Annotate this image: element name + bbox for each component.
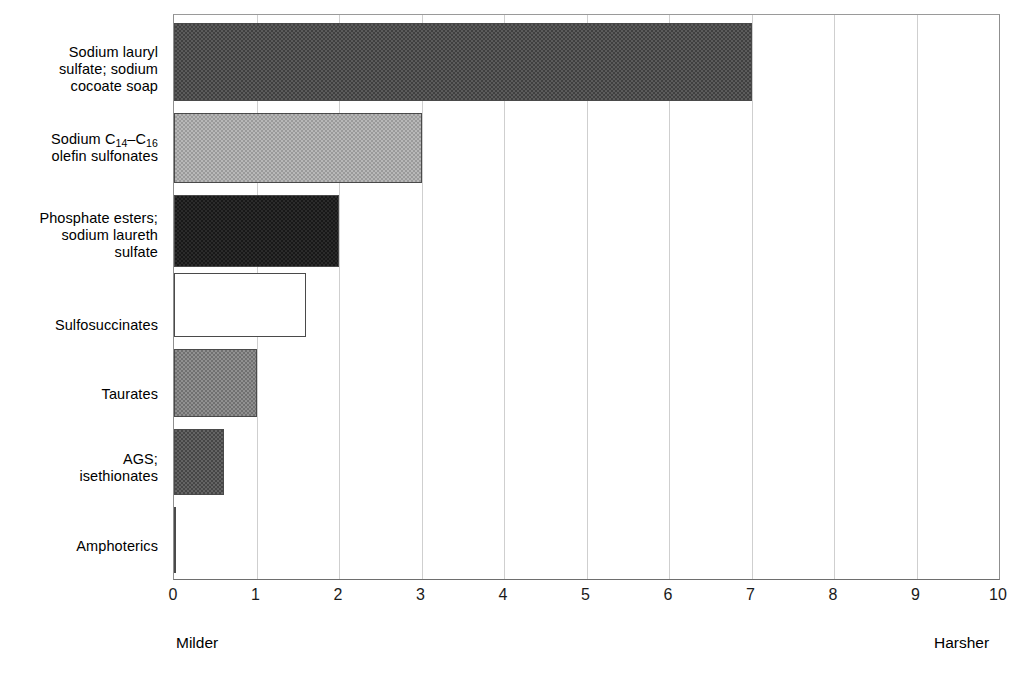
x-tick-label: 2 (334, 586, 343, 604)
bar-ags-isethionates (174, 429, 224, 495)
bar-sodium-olefin-sulfonates (174, 113, 422, 183)
x-tick-label: 9 (911, 586, 920, 604)
category-label-line: Sodium lauryl (0, 44, 158, 61)
category-label-line: isethionates (0, 468, 158, 485)
category-label-sulfosuccinates: Sulfosuccinates (0, 317, 158, 334)
bar-amphoterics (174, 507, 176, 573)
x-axis-tick-labels: 012345678910 (173, 586, 999, 612)
subscript-16: 16 (146, 137, 158, 149)
bar-sodium-lauryl-sulfate (174, 23, 752, 101)
x-tick-label: 1 (251, 586, 260, 604)
category-label-sodium-olefin-sulfonates: Sodium C14–C16 olefin sulfonates (0, 131, 158, 165)
bars-group (174, 15, 999, 579)
category-label-text: –C (127, 131, 146, 147)
category-label-line: olefin sulfonates (0, 148, 158, 165)
axis-note-harsher: Harsher (934, 634, 989, 652)
category-label-line: Sulfosuccinates (0, 317, 158, 334)
category-label-line: Taurates (0, 386, 158, 403)
bar-taurates (174, 349, 257, 417)
axis-note-milder: Milder (176, 634, 218, 652)
category-label-line: Phosphate esters; (0, 210, 158, 227)
category-label-line: sodium laureth (0, 227, 158, 244)
x-tick-label: 6 (664, 586, 673, 604)
subscript-14: 14 (115, 137, 127, 149)
category-label-line: sulfate (0, 244, 158, 261)
x-tick-label: 5 (581, 586, 590, 604)
x-tick-label: 4 (499, 586, 508, 604)
x-tick-label: 3 (416, 586, 425, 604)
category-label-line: sulfate; sodium (0, 61, 158, 78)
category-label-line: Sodium C14–C16 (0, 131, 158, 148)
category-label-line: AGS; (0, 451, 158, 468)
category-label-ags-isethionates: AGS; isethionates (0, 451, 158, 485)
category-label-text: Sodium C (51, 131, 115, 147)
plot-area (173, 14, 1000, 580)
category-label-amphoterics: Amphoterics (0, 538, 158, 555)
x-tick-label: 10 (989, 586, 1007, 604)
category-label-sodium-lauryl-sulfate: Sodium lauryl sulfate; sodium cocoate so… (0, 44, 158, 95)
bar-phosphate-esters (174, 195, 339, 267)
category-label-column: Sodium lauryl sulfate; sodium cocoate so… (0, 14, 166, 578)
category-label-line: cocoate soap (0, 78, 158, 95)
category-label-phosphate-esters: Phosphate esters; sodium laureth sulfate (0, 210, 158, 261)
category-label-taurates: Taurates (0, 386, 158, 403)
bar-chart: Sodium lauryl sulfate; sodium cocoate so… (0, 0, 825, 696)
category-label-line: Amphoterics (0, 538, 158, 555)
bar-sulfosuccinates (174, 273, 306, 337)
x-tick-label: 8 (829, 586, 838, 604)
x-tick-label: 0 (169, 586, 178, 604)
x-tick-label: 7 (746, 586, 755, 604)
